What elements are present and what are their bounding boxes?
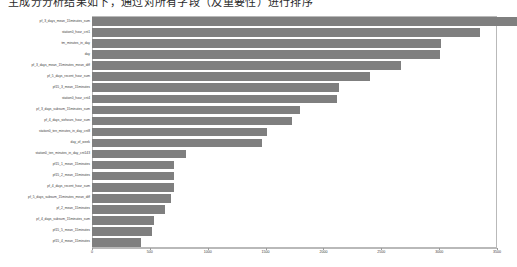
bar [92, 238, 141, 247]
bar [92, 183, 174, 192]
bar [92, 95, 337, 104]
bar-row: day [0, 49, 510, 60]
bar-row: pf15_4_mean_15minutes [0, 237, 510, 248]
document-heading-text: 主成分分析结果如下，通过对所有字段（及重要性）进行排序 [8, 0, 510, 9]
y-axis-tick-label: pf_4_days_sixhours_hour_sum [44, 119, 92, 122]
bar [92, 61, 401, 70]
x-axis-tick-label: 500 [147, 251, 153, 255]
bar-row: station0_ten_minutes_in_day_cnt143 [0, 149, 510, 160]
y-axis-tick-label: pf_3_days_mean_15minutes_mean_diff [31, 64, 92, 67]
bar-row: pf_4_days_recent_hour_sum [0, 182, 510, 193]
bar-row: pf_3_days_mean_15minutes_sum [0, 16, 510, 27]
bar [92, 106, 300, 115]
y-axis-tick-label: day [85, 53, 92, 56]
y-axis-tick-label: pf15_3_mean_15minutes [53, 86, 92, 89]
x-axis-tick-label: 3500 [493, 251, 501, 255]
bar [92, 128, 267, 137]
bar [92, 139, 262, 148]
y-axis-tick-label: tm_minutes_in_day [61, 42, 92, 45]
bar-row: pf_5_days_subsum_15minutes_mean_diff [0, 193, 510, 204]
x-axis: 0500100015002000250030003500 [92, 248, 498, 267]
bar [92, 194, 171, 203]
bar [92, 150, 186, 159]
bar [92, 83, 339, 92]
bar-row: tm_minutes_in_day [0, 38, 510, 49]
bar-row: pf15_1_mean_15minutes [0, 160, 510, 171]
bar [92, 39, 441, 48]
y-axis-tick-label: pf15_5_mean_15minutes [53, 230, 92, 233]
bar-row: pf15_3_mean_15minutes [0, 82, 510, 93]
bar-rows-container: pf_3_days_mean_15minutes_sumstation0_hou… [0, 16, 510, 248]
y-axis-tick-label: station0_hour_cnt1 [62, 31, 92, 34]
y-axis-tick-label: pf15_4_mean_15minutes [53, 241, 92, 244]
bar-row: pf_5_days_recent_hour_sum [0, 71, 510, 82]
x-axis-tick-label: 3000 [435, 251, 443, 255]
bar-row: station0_hour_cnt1 [0, 27, 510, 38]
y-axis-tick-label: station0_ten_minutes_in_day_cnt143 [35, 152, 92, 155]
bar [92, 172, 174, 181]
bar [92, 117, 292, 126]
x-axis-tick-label: 1000 [204, 251, 212, 255]
bar-row: pf15_2_mean_15minutes [0, 171, 510, 182]
bar-row: station0_hour_cnt4 [0, 93, 510, 104]
x-axis-tick-label: 0 [91, 251, 93, 255]
bar-row: pf_4_days_sixhours_hour_sum [0, 115, 510, 126]
bar-row: day_of_week [0, 138, 510, 149]
x-axis-tick-label: 2500 [377, 251, 385, 255]
x-axis-line [92, 248, 497, 249]
y-axis-tick-label: day_of_week [71, 141, 92, 144]
y-axis-tick-label: pf_4_days_recent_hour_sum [47, 186, 92, 189]
y-axis-tick-label: station0_hour_cnt4 [62, 97, 92, 100]
bar [92, 161, 174, 170]
bar [92, 28, 480, 37]
y-axis-tick-label: pf_4_days_subsum_15minutes_sum [36, 219, 92, 222]
y-axis-tick-label: pf_5_days_subsum_15minutes_mean_diff [28, 197, 92, 200]
bar [92, 17, 517, 26]
bar [92, 216, 154, 225]
bar-row: pf15_5_mean_15minutes [0, 226, 510, 237]
x-axis-tick-label: 1500 [262, 251, 270, 255]
bar-row: pf_3_days_mean_15minutes_mean_diff [0, 60, 510, 71]
y-axis-tick-label: station0_ten_minutes_in_day_cnt8 [39, 130, 92, 133]
bar-row: pf_2_mean_15minutes [0, 204, 510, 215]
bar [92, 205, 165, 214]
x-axis-tick-label: 2000 [319, 251, 327, 255]
bar [92, 72, 370, 81]
chart-figure: pf_3_days_mean_15minutes_sumstation0_hou… [0, 14, 510, 267]
y-axis-tick-label: pf_3_days_subsum_15minutes_sum [36, 108, 92, 111]
y-axis-tick-label: pf15_1_mean_15minutes [53, 163, 92, 166]
bar [92, 50, 440, 59]
bar-row: pf_4_days_subsum_15minutes_sum [0, 215, 510, 226]
y-axis-tick-label: pf15_2_mean_15minutes [53, 175, 92, 178]
bar [92, 227, 152, 236]
document-heading-line: 主成分分析结果如下，通过对所有字段（及重要性）进行排序 [0, 0, 510, 13]
y-axis-tick-label: pf_2_mean_15minutes [56, 208, 92, 211]
bar-row: station0_ten_minutes_in_day_cnt8 [0, 126, 510, 137]
y-axis-tick-label: pf_5_days_recent_hour_sum [47, 75, 92, 78]
y-axis-tick-label: pf_3_days_mean_15minutes_sum [40, 20, 92, 23]
bar-row: pf_3_days_subsum_15minutes_sum [0, 104, 510, 115]
